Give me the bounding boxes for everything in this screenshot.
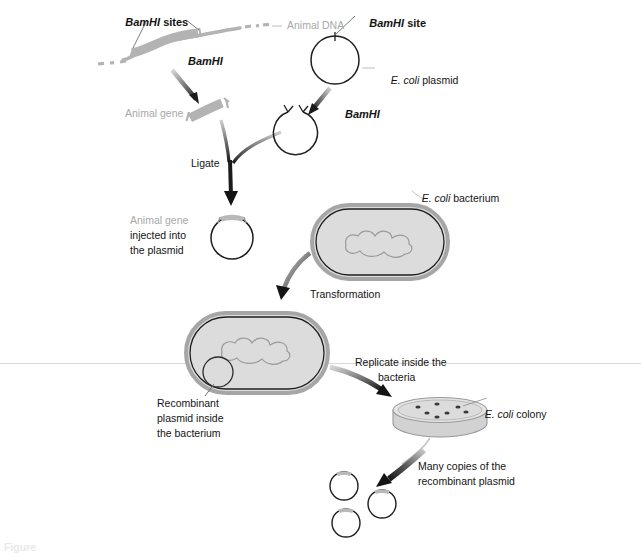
label-bamhi-site: BamHI site — [357, 4, 426, 43]
label-injected-line1: injected into — [130, 229, 186, 241]
transformation-arrow — [276, 253, 310, 300]
label-recombinant-line1: Recombinant — [157, 397, 219, 409]
label-replicate-line2: bacteria — [378, 371, 415, 383]
label-ecoli-colony: E. coli colony — [473, 396, 547, 433]
label-many-copies-line1: Many copies of the — [418, 460, 506, 472]
recombinant-plasmid-product — [211, 217, 253, 259]
label-animal-dna: Animal DNA — [287, 19, 344, 31]
label-ecoli-plasmid-italic: E. coli — [391, 74, 420, 86]
bamhi-digest-arrow-plasmid — [308, 88, 330, 115]
label-ecoli-plasmid: E. coli plasmid — [379, 62, 458, 99]
figure-caption: Figure — [4, 541, 36, 553]
transformed-bacterium-cell — [186, 313, 328, 396]
label-recombinant-line3: the bacterium — [157, 427, 221, 439]
label-bamhi-sites-enzyme: BamHI — [125, 16, 160, 28]
label-ecoli-colony-italic: E. coli — [485, 408, 514, 420]
label-injected-line2: the plasmid — [130, 244, 184, 256]
plasmid-copy — [330, 472, 358, 500]
label-recombinant-line2: plasmid inside — [157, 412, 224, 424]
plasmid-copy — [332, 509, 360, 537]
plasmid-copy — [368, 490, 396, 518]
ligate-arrow — [221, 120, 281, 206]
bamhi-digest-arrow-animal — [172, 70, 199, 104]
label-replicate-line1: Replicate inside the — [355, 356, 447, 368]
label-animal-gene: Animal gene — [125, 107, 183, 119]
label-ecoli-bacterium: E. coli bacterium — [410, 180, 499, 217]
label-ecoli-colony-rest: colony — [513, 408, 546, 420]
label-bamhi-sites-rest: sites — [160, 16, 188, 28]
label-transformation: Transformation — [310, 288, 380, 300]
label-ecoli-bacterium-rest: bacterium — [450, 192, 499, 204]
label-bamhi-sites: BamHI sites — [113, 3, 188, 42]
label-bamhi-site-enzyme: BamHI — [369, 17, 404, 29]
label-injected-gene: Animal gene — [130, 214, 188, 226]
label-bamhi-digest-plasmid: BamHI — [345, 108, 380, 121]
label-ecoli-plasmid-rest: plasmid — [419, 74, 458, 86]
label-bamhi-site-rest: site — [404, 17, 426, 29]
cut-animal-gene-fragment — [187, 98, 230, 121]
label-many-copies-line2: recombinant plasmid — [418, 475, 515, 487]
label-ligate: Ligate — [191, 157, 220, 169]
label-ecoli-bacterium-italic: E. coli — [422, 192, 451, 204]
label-bamhi-digest-animal: BamHI — [188, 55, 223, 68]
